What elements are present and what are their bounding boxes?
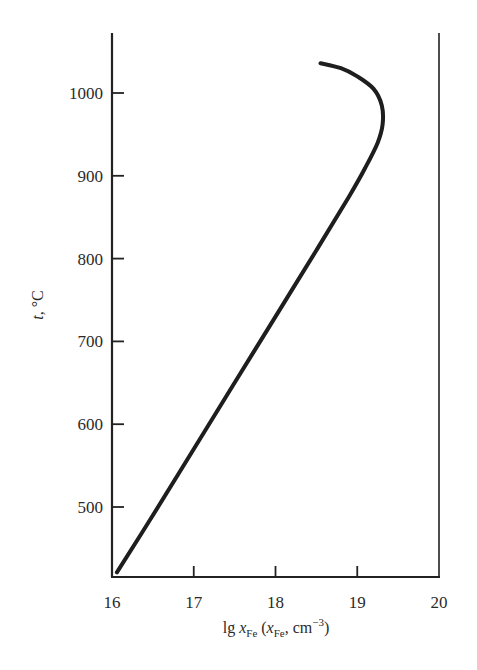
axis-labels: lg xFe (xFe, cm−3) t, °C	[29, 290, 329, 639]
data-line	[117, 63, 383, 572]
chart: 16171819205006007008009001000 lg xFe (xF…	[0, 0, 477, 670]
x-tick-label: 19	[349, 593, 366, 612]
axes	[111, 33, 440, 577]
y-tick-label: 500	[78, 498, 104, 517]
x-tick-label: 18	[267, 593, 284, 612]
data-series	[117, 63, 383, 572]
y-tick-label: 1000	[69, 84, 103, 103]
y-tick-label: 600	[78, 415, 104, 434]
y-axis-title: t, °C	[29, 290, 46, 320]
y-tick-label: 800	[78, 250, 104, 269]
x-tick-label: 20	[431, 593, 448, 612]
x-tick-label: 16	[104, 593, 121, 612]
y-tick-label: 900	[78, 167, 104, 186]
x-tick-label: 17	[185, 593, 203, 612]
y-tick-label: 700	[78, 332, 104, 351]
x-axis-title: lg xFe (xFe, cm−3)	[223, 616, 330, 639]
